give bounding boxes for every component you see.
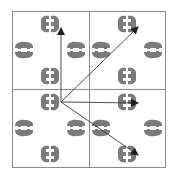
grid: [13, 12, 166, 168]
animal-pair-icon-right: [144, 120, 162, 137]
animal-pair-icon-top: [118, 94, 136, 111]
animal-pair-icon-left: [92, 42, 110, 59]
animal-pair-icon-left: [15, 42, 33, 59]
animal-pair-icon-right: [144, 42, 162, 59]
animal-pair-icon-left: [15, 120, 33, 137]
tiling-diagram: [0, 0, 177, 180]
animal-pair-icon-bottom: [118, 68, 136, 85]
arrow-down-right: [61, 102, 138, 155]
animal-pair-icon-top: [41, 16, 59, 33]
arrow-right: [61, 102, 138, 103]
tile-bottom-right: [92, 94, 162, 163]
animal-pair-icon-bottom: [41, 146, 59, 163]
animal-pair-icon-top: [118, 16, 136, 33]
animal-pair-icon-right: [67, 42, 85, 59]
animal-pair-icon-top: [41, 94, 59, 111]
tile-top-left: [15, 16, 85, 85]
arrow-up-right: [61, 27, 138, 102]
animal-pair-icon-right: [67, 120, 85, 137]
animal-pair-icon-bottom: [41, 68, 59, 85]
animal-pair-icon-bottom: [118, 146, 136, 163]
tile-top-right: [92, 16, 162, 85]
tile-bottom-left: [15, 94, 85, 163]
